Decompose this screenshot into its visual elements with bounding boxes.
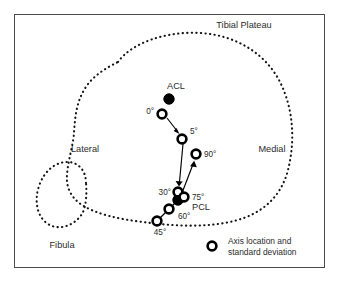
- figure-root: Tibial Plateau Lateral Medial Fibula ACL…: [0, 0, 338, 285]
- pcl-label: PCL: [192, 202, 210, 212]
- angle-label-75deg: 75°: [192, 193, 204, 202]
- axis-marker-45deg[interactable]: [153, 217, 162, 226]
- lateral-label: Lateral: [71, 144, 99, 154]
- legend-line-1: Axis location and: [228, 236, 292, 246]
- angle-label-45deg: 45°: [154, 228, 166, 237]
- axis-marker-60deg[interactable]: [165, 205, 174, 214]
- figure-border: [15, 15, 325, 268]
- acl-marker: [164, 94, 174, 104]
- legend-open-circle-icon: [208, 242, 217, 251]
- acl-label: ACL: [167, 81, 185, 91]
- tibial-plateau-label: Tibial Plateau: [216, 20, 271, 30]
- axis-marker-75deg[interactable]: [180, 193, 189, 202]
- legend-line-2: standard deviation: [228, 247, 297, 257]
- angle-label-90deg: 90°: [204, 150, 216, 159]
- axis-marker-0deg[interactable]: [158, 110, 167, 119]
- angle-label-30deg: 30°: [159, 188, 171, 197]
- medial-label: Medial: [258, 144, 285, 154]
- angle-label-0deg: 0°: [146, 107, 154, 116]
- angle-label-5deg: 5°: [190, 127, 198, 136]
- axis-marker-90deg[interactable]: [192, 150, 201, 159]
- angle-label-60deg: 60°: [178, 212, 190, 221]
- fibula-label: Fibula: [49, 240, 75, 250]
- tibial-plateau-diagram: Tibial Plateau Lateral Medial Fibula ACL…: [0, 0, 338, 285]
- axis-marker-5deg[interactable]: [178, 135, 187, 144]
